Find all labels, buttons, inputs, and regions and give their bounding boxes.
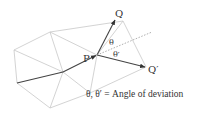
path-segment-incoming xyxy=(17,72,63,83)
label-theta-prime: θ′ xyxy=(113,50,120,59)
mesh-edge xyxy=(50,32,63,72)
label-p: P xyxy=(83,53,90,64)
arrow-p-to-q-prime xyxy=(97,55,145,67)
label-q-prime: Q′ xyxy=(148,64,159,75)
mesh-edge xyxy=(50,32,97,55)
mesh-edge xyxy=(14,50,63,72)
caption-angle-of-deviation: θ, θ′ = Angle of deviation xyxy=(86,89,183,99)
extension-dotted-line xyxy=(97,32,152,55)
mesh-edge xyxy=(50,72,63,108)
label-q: Q xyxy=(115,8,123,19)
path-segment-to-p xyxy=(63,56,96,73)
mesh-edge xyxy=(90,55,97,93)
deviation-diagram: P Q Q′ θ θ′ xyxy=(0,0,205,117)
label-theta: θ xyxy=(109,38,114,47)
